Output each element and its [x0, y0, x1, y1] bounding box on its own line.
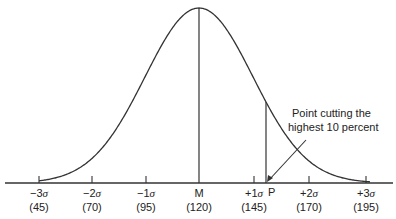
tick-value: (70) [82, 201, 102, 213]
tick-value: (170) [296, 201, 322, 213]
tick-value: (45) [29, 201, 49, 213]
tick-value: (95) [136, 201, 156, 213]
tick-label: −2σ [83, 187, 102, 199]
tick-label: +1σ [245, 187, 264, 199]
tick-value: (120) [186, 201, 212, 213]
tick-label: M [194, 187, 203, 199]
tick-label: −3σ [30, 187, 49, 199]
tick-label: −1σ [137, 187, 156, 199]
annotation-line1: Point cutting the [292, 107, 371, 119]
tick-marks [39, 176, 366, 183]
tick-value: (195) [353, 201, 379, 213]
annotation-line2: highest 10 percent [288, 121, 379, 133]
tick-labels: −3σ(45)−2σ(70)−1σ(95)M(120)+1σ(145)+2σ(1… [29, 187, 379, 213]
tick-label: +3σ [357, 187, 376, 199]
bell-curve [39, 8, 370, 182]
normal-curve-diagram: Point cutting the highest 10 percent P −… [0, 0, 396, 219]
tick-value: (145) [241, 201, 267, 213]
point-p-label: P [268, 186, 275, 198]
tick-label: +2σ [300, 187, 319, 199]
annotation-arrow [269, 140, 306, 180]
